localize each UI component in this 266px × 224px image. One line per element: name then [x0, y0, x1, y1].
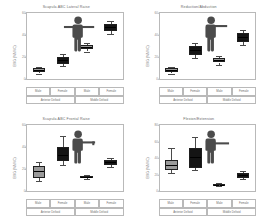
x-axis-category-row: MaleFemaleMaleFemale: [26, 87, 124, 96]
boxplot-cap-lower: [192, 170, 198, 171]
boxplot-cap-lower: [240, 179, 246, 180]
boxplot-box: [165, 160, 177, 170]
y-tick-label: 40: [22, 145, 25, 149]
boxplot-box: [237, 33, 249, 42]
x-axis-group-cell: Middle Deltoid: [75, 96, 124, 105]
boxplot-cap-upper: [168, 148, 174, 149]
y-axis-label: EMG (%MVC): [145, 45, 149, 66]
x-axis-category-cell: Female: [99, 199, 123, 208]
x-axis-category-cell: Female: [183, 199, 207, 208]
boxplot-cap-lower: [36, 74, 42, 75]
panel-reduction-abduction: Reduction/AbductionEMG (%MVC)0204060Male…: [133, 0, 266, 112]
x-axis-category-cell: Male: [159, 87, 183, 96]
standing-figure-arm-frontal-icon: [63, 128, 97, 168]
y-axis-label: EMG (%MVC): [145, 157, 149, 178]
y-tick-label: 20: [155, 55, 158, 59]
boxplot-cap-lower: [36, 181, 42, 182]
y-tick-label: 20: [22, 167, 25, 171]
x-axis-category-row: MaleFemaleMaleFemale: [159, 199, 257, 208]
y-axis-label: EMG (%MVC): [13, 45, 17, 66]
boxplot-box: [33, 166, 45, 178]
x-axis-category-cell: Male: [159, 199, 183, 208]
x-axis-category-cell: Male: [207, 87, 231, 96]
x-axis-group-row: Anterior DeltoidMiddle Deltoid: [26, 96, 124, 105]
x-axis-category-row: MaleFemaleMaleFemale: [26, 199, 124, 208]
y-tick-mark: [25, 57, 27, 58]
boxplot-median-line: [34, 70, 44, 71]
y-tick-label: 0: [24, 189, 26, 193]
x-axis-category-cell: Female: [183, 87, 207, 96]
boxplot-cap-lower: [60, 66, 66, 67]
boxplot-cap-upper: [36, 162, 42, 163]
x-axis-table: MaleFemaleMaleFemaleAnterior DeltoidMidd…: [26, 199, 124, 216]
boxplot-median-line: [105, 162, 115, 163]
y-tick-mark: [25, 13, 27, 14]
x-axis-category-cell: Male: [75, 199, 99, 208]
boxplot-median-line: [58, 60, 68, 61]
plot-area: 0204060: [26, 12, 124, 80]
x-axis-category-cell: Female: [232, 199, 256, 208]
y-tick-label: 0: [156, 189, 158, 193]
plot-area: 0204060: [26, 124, 124, 192]
x-axis-category-cell: Female: [232, 87, 256, 96]
plot-area: 0204060: [159, 12, 257, 80]
boxplot-median-line: [238, 175, 248, 176]
x-axis-category-row: MaleFemaleMaleFemale: [159, 87, 257, 96]
y-tick-label: 20: [22, 55, 25, 59]
x-axis-group-cell: Middle Deltoid: [207, 208, 256, 217]
x-axis-table: MaleFemaleMaleFemaleAnterior DeltoidMidd…: [159, 87, 257, 104]
x-axis-group-cell: Anterior Deltoid: [26, 208, 75, 217]
boxplot-cap-upper: [36, 67, 42, 68]
y-tick-label: 40: [22, 33, 25, 37]
boxplot-box: [104, 24, 116, 31]
panel-scapula-lateral-raise: Scapula ABC Lateral RaiseEMG (%MVC)02040…: [0, 0, 133, 112]
x-axis-group-row: Anterior DeltoidMiddle Deltoid: [159, 208, 257, 217]
x-axis-group-row: Anterior DeltoidMiddle Deltoid: [26, 208, 124, 217]
y-tick-label: 80: [155, 123, 158, 127]
panel-scapula-frontal-raise: Scapula ABC Frontal RaiseEMG (%MVC)02040…: [0, 112, 133, 224]
boxplot-cap-lower: [192, 58, 198, 59]
x-axis-table: MaleFemaleMaleFemaleAnterior DeltoidMidd…: [159, 199, 257, 216]
x-axis-category-cell: Male: [26, 87, 50, 96]
x-axis-group-cell: Anterior Deltoid: [159, 96, 208, 105]
y-tick-label: 60: [22, 11, 25, 15]
x-axis-category-cell: Female: [99, 87, 123, 96]
y-tick-label: 40: [155, 156, 158, 160]
x-axis-category-cell: Male: [26, 199, 50, 208]
boxplot-median-line: [34, 171, 44, 172]
y-tick-label: 60: [155, 140, 158, 144]
panel-title: Reduction/Abduction: [133, 5, 266, 9]
boxplot-whisker-upper: [171, 148, 172, 160]
x-axis-group-cell: Middle Deltoid: [75, 208, 124, 217]
y-axis-label: EMG (%MVC): [13, 157, 17, 178]
x-axis-category-cell: Female: [50, 87, 74, 96]
boxplot-cap-lower: [107, 167, 113, 168]
x-axis-category-cell: Male: [75, 87, 99, 96]
boxplot-median-line: [238, 37, 248, 38]
standing-figure-arm-lateral-icon: [63, 14, 97, 54]
x-axis-group-cell: Anterior Deltoid: [159, 208, 208, 217]
boxplot-median-line: [166, 165, 176, 166]
y-tick-label: 0: [156, 77, 158, 81]
y-tick-label: 40: [155, 33, 158, 37]
boxplot-cap-lower: [168, 74, 174, 75]
y-tick-mark: [158, 141, 160, 142]
boxplot-cap-upper: [240, 30, 246, 31]
boxplot-cap-lower: [168, 173, 174, 174]
boxplot-cap-upper: [84, 175, 90, 176]
y-tick-mark: [25, 169, 27, 170]
boxplot-cap-upper: [216, 183, 222, 184]
boxplot-cap-lower: [216, 65, 222, 66]
boxplot-cap-upper: [216, 56, 222, 57]
boxplot-cap-upper: [107, 158, 113, 159]
y-tick-mark: [25, 147, 27, 148]
panel-title: Scapula ABC Frontal Raise: [0, 117, 133, 121]
standing-figure-arm-flexion-icon: [196, 128, 230, 168]
panel-flexion-extension: Flexion/ExtensionEMG (%MVC)020406080Male…: [133, 112, 266, 224]
figure-panel-grid: Scapula ABC Lateral RaiseEMG (%MVC)02040…: [0, 0, 265, 224]
x-axis-table: MaleFemaleMaleFemaleAnterior DeltoidMidd…: [26, 87, 124, 104]
y-tick-mark: [25, 35, 27, 36]
y-tick-mark: [158, 57, 160, 58]
y-tick-mark: [158, 158, 160, 159]
boxplot-cap-upper: [107, 21, 113, 22]
